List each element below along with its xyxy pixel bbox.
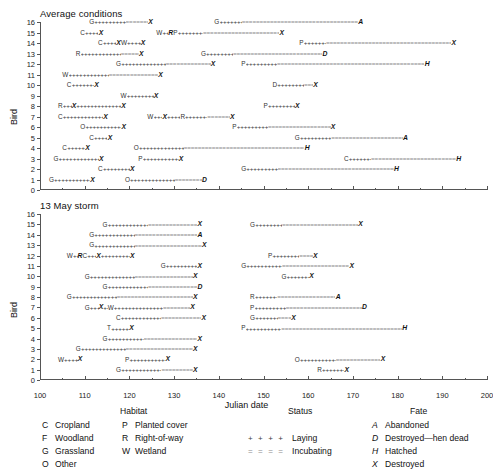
laying-segment: ++++++++++++++++++++++ [90, 273, 135, 279]
fate-code: X [331, 124, 336, 131]
fate-code: X [193, 273, 198, 280]
nest-record: G++++++++++++++++++++++=================… [67, 293, 198, 302]
x-tick-minor [286, 378, 287, 381]
x-tick-minor [241, 378, 242, 381]
y-tick [37, 117, 40, 118]
y-tick-label: 4 [31, 144, 35, 153]
y-tick [37, 214, 40, 215]
y-tick-label: 8 [31, 293, 35, 302]
incubating-segment: ========================================… [281, 325, 402, 331]
nest-record: C++++++++++++++++++++===================… [116, 313, 206, 322]
figure-legend: Habitat Status Fate CCroplandFWoodlandGG… [0, 406, 493, 461]
legend-code: X [372, 459, 385, 469]
fate-code: X [103, 113, 108, 120]
nest-record: P+++++++++++++++========================… [241, 60, 429, 69]
nest-record: G+++++++++++++++========================… [295, 133, 408, 142]
x-tick-minor [331, 188, 332, 191]
y-tick-label: 7 [31, 112, 35, 121]
legend-label: Destroyed—hen dead [385, 433, 469, 443]
habitat-code: W [156, 29, 162, 35]
y-tick-label: 12 [27, 60, 35, 69]
nest-record: R++++++++++++++++++++=========X [76, 49, 144, 58]
y-tick-label: 16 [27, 210, 35, 219]
fate-code: X [179, 155, 184, 162]
laying-segment: +++++++ [103, 40, 116, 46]
fate-code: X [121, 103, 126, 110]
x-tick-label: 170 [347, 391, 360, 400]
x-tick-minor [465, 378, 466, 381]
nest-record: G++++++++++++++++++++++=================… [76, 344, 198, 353]
legend-code: F [42, 433, 55, 443]
laying-segment: +++++++++++++++++ [143, 155, 179, 161]
laying-segment: +++++++++++ [349, 155, 371, 161]
fate-code: X [381, 356, 386, 363]
y-tick [37, 180, 40, 181]
nest-record: G+++++++++++++==========================… [250, 220, 363, 229]
x-tick-minor [196, 378, 197, 381]
nest-record: R++++X++++++++++++++++++++++X [58, 102, 126, 111]
laying-segment: +++++++++++++ [206, 50, 233, 56]
y-tick [37, 43, 40, 44]
x-tick-minor [375, 378, 376, 381]
fate-code: X [193, 366, 198, 373]
nest-record: G+++++++++++=======X [250, 313, 296, 322]
laying-segment: +++++++ [127, 40, 140, 46]
nest-record: P+++++++++++++X [264, 102, 300, 111]
fate-code: X [202, 242, 207, 249]
fate-code: X [141, 40, 146, 47]
incubating-segment: ============================ [277, 294, 335, 300]
laying-segment: ++++++++++++++++++++++ [81, 346, 126, 352]
y-tick-label: 6 [31, 123, 35, 132]
nest-record: P+++++++++++++++++X [125, 355, 170, 364]
legend-code: R [122, 433, 135, 443]
nest-record: G++++++++++++++++++++===================… [89, 230, 202, 239]
legend-item-fate: DDestroyed—hen dead [372, 433, 469, 443]
laying-segment: ++++++++++++++++++++++ [121, 61, 166, 67]
x-tick-minor [107, 188, 108, 191]
fate-code: X [291, 314, 296, 321]
x-tick-minor [420, 378, 421, 381]
laying-segment: +++++++++++++++++ [108, 335, 144, 341]
nest-record: P+++++++++++++=======X [268, 251, 318, 260]
nest-record: C+++++++X [89, 133, 112, 142]
incubating-segment: =========== [207, 113, 229, 119]
y-tick-label: 13 [27, 241, 35, 250]
incubating-segment: =============== [161, 367, 192, 373]
nest-record: G++++++++++++++++++++===================… [103, 282, 203, 291]
nest-record: C+++++++XW+++++++X [98, 39, 145, 48]
fate-code: H [394, 166, 399, 173]
fate-code: X [108, 134, 113, 141]
nest-record: G+++++++++++++++X [161, 261, 202, 270]
laying-segment: ++++++++++++++++++++ [94, 242, 134, 248]
y-tick-label: 2 [31, 165, 35, 174]
laying-segment: +++++++++++++ [272, 252, 299, 258]
laying-segment: +++++++++++++++++ [85, 124, 121, 130]
fate-code: X [85, 145, 90, 152]
x-tick-minor [107, 378, 108, 381]
y-tick [37, 339, 40, 340]
nest-record: W+++RP++++++++++++======================… [156, 28, 284, 37]
legend-item-status: + + + +Laying [248, 433, 317, 443]
y-tick-label: 3 [31, 344, 35, 353]
fate-code: X [78, 356, 83, 363]
laying-segment: +++++++++++++++++ [246, 263, 282, 269]
incubating-segment: ============= [175, 176, 202, 182]
laying-segment: +++++++++++ [72, 82, 94, 88]
y-tick-label: 8 [31, 102, 35, 111]
fate-code: A [403, 134, 408, 141]
laying-segment: +++++++++++ [255, 294, 277, 300]
x-tick-major [353, 376, 354, 380]
y-tick-label: 10 [27, 81, 35, 90]
x-tick-major [442, 186, 443, 190]
habitat-code: W [121, 40, 127, 46]
panel-average-conditions: Average conditions 012345678910111213141… [0, 8, 493, 196]
incubating-segment: ===================================== [282, 221, 358, 227]
nest-record: G++++++++++++++++++++++=================… [116, 60, 215, 69]
fate-code: X [139, 50, 144, 57]
y-tick [37, 85, 40, 86]
legend-label: Abandoned [385, 420, 429, 430]
y-tick-label: 1 [31, 365, 35, 374]
laying-segment: ++++ [90, 304, 99, 310]
laying-segment: ++++ [154, 113, 163, 119]
laying-segment: ++++++++++++++++++++ [108, 284, 148, 290]
